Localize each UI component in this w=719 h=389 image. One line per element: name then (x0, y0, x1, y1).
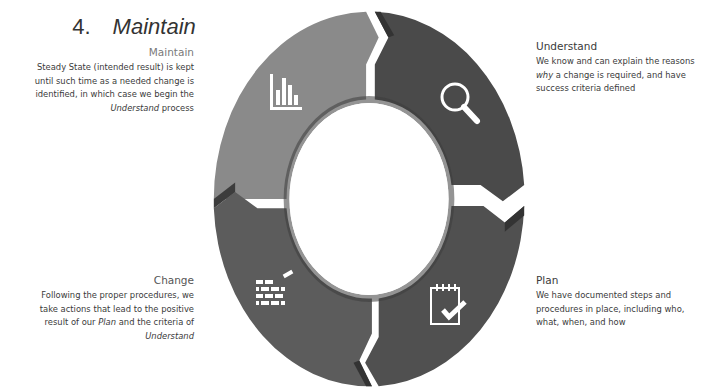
text-line: what, when, and how (536, 316, 719, 330)
text-line: Steady State (intended result) is kept (0, 61, 194, 75)
text-line: identified, in which case we begin the (0, 88, 194, 102)
text-line: success criteria defined (536, 82, 719, 96)
text-span: and the criteria of (116, 317, 194, 327)
text-line: Understand process (0, 102, 194, 116)
stage-understand: Understand We know and can explain the r… (536, 40, 719, 96)
text-line: why a change is required, and have (536, 69, 719, 83)
italic-term: Plan (98, 317, 116, 327)
text-span: process (159, 103, 194, 113)
text-line: Following the proper procedures, we (0, 289, 194, 303)
stage-title: Understand (536, 40, 719, 52)
stage-description: Following the proper procedures, we take… (0, 289, 194, 343)
text-line: procedures in place, including who, (536, 303, 719, 317)
stage-plan: Plan We have documented steps and proced… (536, 274, 719, 330)
stage-description: Steady State (intended result) is kept u… (0, 61, 194, 115)
stage-maintain: Maintain Steady State (intended result) … (0, 46, 194, 115)
italic-term: why (536, 70, 553, 80)
stage-change: Change Following the proper procedures, … (0, 274, 194, 343)
stage-title: Plan (536, 274, 719, 286)
stage-description: We know and can explain the reasons why … (536, 55, 719, 96)
text-line: take actions that lead to the positive (0, 303, 194, 317)
text-line: Understand (0, 330, 194, 344)
stage-title: Change (0, 274, 194, 286)
text-line: until such time as a needed change is (0, 75, 194, 89)
italic-term: Understand (110, 103, 159, 113)
text-span: result of our (45, 317, 99, 327)
stage-description: We have documented steps and procedures … (536, 289, 719, 330)
stage-title: Maintain (0, 46, 194, 58)
text-span: a change is required, and have (553, 70, 686, 80)
text-line: result of our Plan and the criteria of (0, 316, 194, 330)
text-line: We have documented steps and (536, 289, 719, 303)
text-line: We know and can explain the reasons (536, 55, 719, 69)
italic-term: Understand (145, 331, 194, 341)
